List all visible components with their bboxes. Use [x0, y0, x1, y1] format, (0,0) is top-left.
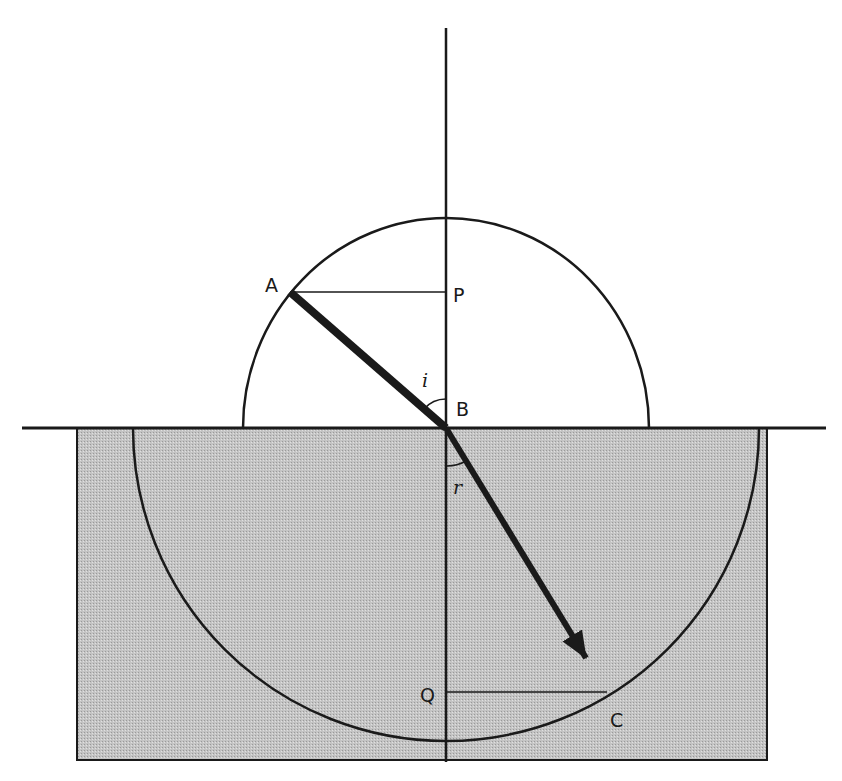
refraction-diagram: A P i B r Q C — [0, 0, 842, 781]
label-Q: Q — [420, 686, 435, 705]
diagram-canvas — [0, 0, 842, 781]
label-B: B — [456, 400, 469, 419]
label-A: A — [265, 276, 278, 295]
label-P: P — [453, 286, 464, 305]
label-r: r — [453, 478, 462, 497]
label-i: i — [422, 371, 428, 390]
label-C: C — [610, 711, 623, 730]
incident-ray — [290, 292, 446, 428]
